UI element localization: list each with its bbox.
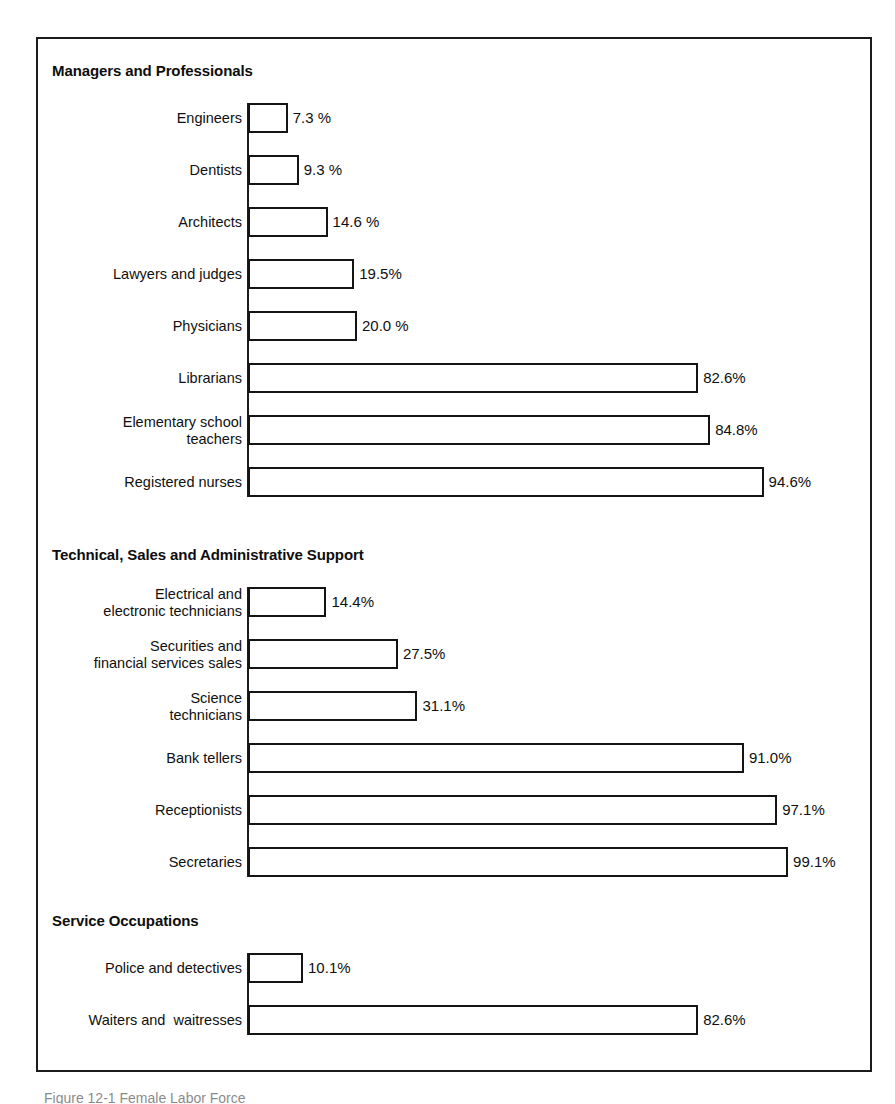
bar-category-label: Science technicians <box>58 690 248 723</box>
bar <box>248 743 744 773</box>
bar-value-label: 27.5% <box>403 646 446 662</box>
bar-value-label: 7.3 % <box>293 110 331 126</box>
bar-category-label: Receptionists <box>58 802 248 819</box>
bar-row: Science technicians31.1% <box>38 691 870 721</box>
bar <box>248 103 288 133</box>
section-heading: Technical, Sales and Administrative Supp… <box>52 547 364 563</box>
bar-category-label: Elementary school teachers <box>58 414 248 447</box>
bar-category-label: Architects <box>58 214 248 231</box>
bar-row: Waiters and waitresses82.6% <box>38 1005 870 1035</box>
bar-value-label: 91.0% <box>749 750 792 766</box>
bar-category-label: Physicians <box>58 318 248 335</box>
bar-category-label: Secretaries <box>58 854 248 871</box>
bar-category-label: Electrical and electronic technicians <box>58 586 248 619</box>
bar <box>248 953 303 983</box>
bar-category-label: Waiters and waitresses <box>58 1012 248 1029</box>
bar-row: Electrical and electronic technicians14.… <box>38 587 870 617</box>
bar-row: Elementary school teachers84.8% <box>38 415 870 445</box>
bar-row: Bank tellers91.0% <box>38 743 870 773</box>
bar <box>248 311 357 341</box>
bar <box>248 691 417 721</box>
bar-value-label: 82.6% <box>703 370 746 386</box>
bar <box>248 415 710 445</box>
bar-row: Securities and financial services sales2… <box>38 639 870 669</box>
bar-row: Lawyers and judges19.5% <box>38 259 870 289</box>
bar-category-label: Bank tellers <box>58 750 248 767</box>
bar-value-label: 97.1% <box>782 802 825 818</box>
bar-value-label: 14.4% <box>331 594 374 610</box>
bar-value-label: 9.3 % <box>304 162 342 178</box>
bar-row: Architects14.6 % <box>38 207 870 237</box>
bar-value-label: 31.1% <box>422 698 465 714</box>
axis-baseline <box>247 587 249 877</box>
bar-row: Physicians20.0 % <box>38 311 870 341</box>
bar <box>248 155 299 185</box>
bar <box>248 363 698 393</box>
bar-row: Police and detectives10.1% <box>38 953 870 983</box>
bar-value-label: 14.6 % <box>333 214 380 230</box>
bar-chart-plot: Managers and ProfessionalsEngineers7.3 %… <box>38 39 870 1070</box>
bar-category-label: Librarians <box>58 370 248 387</box>
bar <box>248 795 777 825</box>
bar-category-label: Registered nurses <box>58 474 248 491</box>
bar-row: Receptionists97.1% <box>38 795 870 825</box>
bar-category-label: Securities and financial services sales <box>58 638 248 671</box>
bar-value-label: 99.1% <box>793 854 836 870</box>
bar-value-label: 10.1% <box>308 960 351 976</box>
bar-category-label: Engineers <box>58 110 248 127</box>
bar-value-label: 19.5% <box>359 266 402 282</box>
bar <box>248 259 354 289</box>
figure-frame: Managers and ProfessionalsEngineers7.3 %… <box>36 37 872 1072</box>
bar <box>248 847 788 877</box>
bar-row: Engineers7.3 % <box>38 103 870 133</box>
bar-value-label: 94.6% <box>769 474 812 490</box>
bar-row: Secretaries99.1% <box>38 847 870 877</box>
bar <box>248 587 326 617</box>
bar-row: Registered nurses94.6% <box>38 467 870 497</box>
bar <box>248 639 398 669</box>
bar-value-label: 82.6% <box>703 1012 746 1028</box>
bar <box>248 1005 698 1035</box>
bar-category-label: Police and detectives <box>58 960 248 977</box>
bar <box>248 467 764 497</box>
figure-caption: Figure 12-1 Female Labor Force <box>44 1090 246 1104</box>
bar-category-label: Lawyers and judges <box>58 266 248 283</box>
bar-row: Dentists9.3 % <box>38 155 870 185</box>
bar-value-label: 84.8% <box>715 422 758 438</box>
section-heading: Managers and Professionals <box>52 63 253 79</box>
bar-value-label: 20.0 % <box>362 318 409 334</box>
bar <box>248 207 328 237</box>
section-heading: Service Occupations <box>52 913 199 929</box>
bar-category-label: Dentists <box>58 162 248 179</box>
bar-row: Librarians82.6% <box>38 363 870 393</box>
